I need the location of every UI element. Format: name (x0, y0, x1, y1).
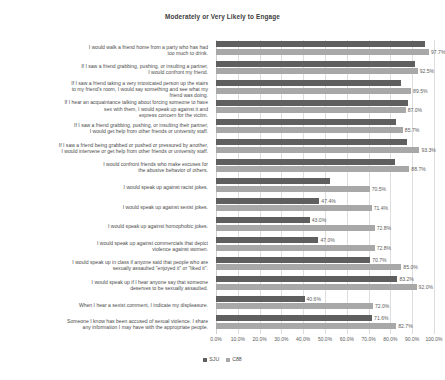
category-label: I would speak up against homophobic joke… (8, 223, 208, 229)
bar-row: 93.3% (216, 138, 434, 158)
category-label: Someone I know has been accused of sexua… (8, 318, 208, 330)
bar-value-label: 82.7% (398, 323, 412, 329)
bar-value-label: 85.7% (405, 127, 419, 133)
bar-c88 (216, 186, 370, 192)
x-axis-tick-label: 100.0% (426, 336, 443, 342)
legend-item[interactable]: SJU (203, 357, 219, 362)
bar-value-label: 71.4% (374, 205, 388, 211)
bar-row: 70.7%85.0% (216, 256, 434, 276)
bar-c88 (216, 303, 373, 309)
x-axis-tick-label: 90.0% (405, 336, 419, 342)
category-label: If I saw a friend grabbing, pushing, or … (8, 63, 208, 75)
bar-value-label: 47.4% (321, 198, 335, 204)
bar-row: 70.5% (216, 177, 434, 197)
bar-value-label: 97.7% (431, 49, 445, 55)
bar-value-label: 87.0% (408, 107, 422, 113)
bar-sju (216, 61, 415, 67)
x-axis: 0.0%10.0%20.0%30.0%40.0%50.0%60.0%70.0%8… (216, 336, 434, 348)
bar-rows: 97.7%92.5%89.5%87.0%85.7%93.3%88.7%70.5%… (216, 40, 434, 334)
bar-row: 97.7% (216, 40, 434, 60)
chart-title: Moderately or Very Likely to Engage (0, 13, 445, 20)
bar-row: 85.7% (216, 118, 434, 138)
bar-row: 40.6%72.0% (216, 295, 434, 315)
bar-row: 92.5% (216, 60, 434, 80)
bar-sju (216, 80, 401, 86)
bar-sju (216, 119, 396, 125)
x-axis-tick-label: 10.0% (231, 336, 245, 342)
bar-c88 (216, 147, 419, 153)
category-label: If I saw a friend grabbing, pushing, or … (8, 122, 208, 134)
category-label: If I saw a friend being grabbed or pushe… (8, 142, 208, 154)
bar-c88 (216, 284, 417, 290)
bar-row: 88.7% (216, 158, 434, 178)
category-label: When I hear a sexist comment, I indicate… (8, 302, 208, 308)
bar-row: 89.5% (216, 79, 434, 99)
x-axis-tick-label: 60.0% (340, 336, 354, 342)
category-label: I would speak up against sexist jokes. (8, 204, 208, 210)
bar-c88 (216, 245, 375, 251)
bar-sju (216, 178, 330, 184)
legend-label: SJU (209, 357, 219, 362)
bar-value-label: 70.5% (372, 186, 386, 192)
bar-value-label: 85.0% (403, 264, 417, 270)
bar-sju (216, 276, 397, 282)
x-axis-tick-label: 40.0% (296, 336, 310, 342)
legend-item[interactable]: C88 (226, 357, 242, 362)
bar-value-label: 89.5% (413, 88, 427, 94)
category-label: I would walk a friend home from a party … (8, 44, 208, 56)
x-axis-tick-label: 80.0% (383, 336, 397, 342)
bar-sju (216, 159, 395, 165)
bar-value-label: 47.0% (320, 237, 334, 243)
bar-value-label: 83.2% (399, 276, 413, 282)
chart-legend: SJUC88 (0, 357, 445, 362)
bar-c88 (216, 88, 411, 94)
bar-row: 47.4%71.4% (216, 197, 434, 217)
plot-area: 97.7%92.5%89.5%87.0%85.7%93.3%88.7%70.5%… (216, 40, 434, 334)
bar-c88 (216, 49, 429, 55)
chart-container: Moderately or Very Likely to Engage 97.7… (0, 0, 445, 380)
bar-row: 71.6%82.7% (216, 314, 434, 334)
bar-sju (216, 237, 318, 243)
bar-sju (216, 100, 408, 106)
category-label: I would speak up against racist jokes. (8, 184, 208, 190)
bar-c88 (216, 127, 403, 133)
bar-sju (216, 315, 372, 321)
bar-row: 83.2%92.0% (216, 275, 434, 295)
bar-value-label: 93.3% (421, 147, 435, 153)
legend-swatch-icon (226, 358, 230, 362)
bar-value-label: 72.8% (377, 225, 391, 231)
bar-value-label: 71.6% (374, 315, 388, 321)
category-label: If I hear an acquaintance talking about … (8, 99, 208, 118)
x-axis-tick-label: 50.0% (318, 336, 332, 342)
bar-c88 (216, 225, 375, 231)
bar-sju (216, 41, 425, 47)
category-label: I would speak up against commercials tha… (8, 240, 208, 252)
bar-sju (216, 296, 305, 302)
bar-sju (216, 198, 319, 204)
bar-sju (216, 217, 310, 223)
bar-row: 43.0%72.8% (216, 216, 434, 236)
legend-label: C88 (232, 357, 242, 362)
category-label: I would confront friends who make excuse… (8, 161, 208, 173)
bar-c88 (216, 264, 401, 270)
bar-sju (216, 139, 407, 145)
x-axis-tick-label: 0.0% (210, 336, 221, 342)
x-axis-tick-label: 70.0% (362, 336, 376, 342)
bar-value-label: 72.0% (375, 303, 389, 309)
x-axis-tick-label: 30.0% (274, 336, 288, 342)
bar-row: 47.0%72.8% (216, 236, 434, 256)
bar-c88 (216, 205, 372, 211)
bar-sju (216, 257, 370, 263)
bar-value-label: 92.5% (420, 68, 434, 74)
bar-value-label: 72.8% (377, 245, 391, 251)
bar-value-label: 70.7% (372, 257, 386, 263)
bar-c88 (216, 107, 406, 113)
category-labels: I would walk a friend home from a party … (8, 40, 212, 334)
bar-value-label: 88.7% (411, 166, 425, 172)
bar-value-label: 92.0% (419, 284, 433, 290)
gridline (434, 40, 435, 334)
category-label: If I saw a friend taking a very intoxica… (8, 80, 208, 99)
legend-swatch-icon (203, 358, 207, 362)
category-label: I would speak up if I hear anyone say th… (8, 279, 208, 291)
x-axis-tick-label: 20.0% (253, 336, 267, 342)
